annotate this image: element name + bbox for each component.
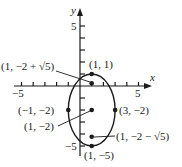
point-focus-down <box>89 135 94 140</box>
leader-focus-down <box>94 136 115 137</box>
x-tick-label-neg5: −5 <box>12 87 24 99</box>
label-focus-down: (1, −2 − √5) <box>116 130 170 143</box>
y-axis-label: y <box>70 4 76 16</box>
y-tick-label-5: 5 <box>71 20 77 32</box>
label-left: (−1, −2) <box>18 104 55 117</box>
label-bottom: (1, −5) <box>84 149 114 162</box>
point-top <box>89 72 94 77</box>
point-left <box>66 108 71 113</box>
ellipse-graph: x y −5 5 5 −5 (1, 1) (1, −2 + √5) (−1, −… <box>0 0 182 167</box>
x-tick-label-5: 5 <box>135 87 141 99</box>
point-bottom <box>89 144 94 149</box>
y-tick-label-neg5: −5 <box>65 140 77 152</box>
point-center <box>89 108 94 113</box>
x-axis-arrow-icon <box>144 83 152 89</box>
leader-focus-up <box>56 71 90 82</box>
label-right: (3, −2) <box>119 104 149 117</box>
point-right <box>113 108 118 113</box>
y-axis-arrow-icon <box>77 8 83 16</box>
data-points <box>66 72 117 149</box>
point-focus-up <box>89 81 94 86</box>
label-top: (1, 1) <box>89 58 113 71</box>
label-focus-up: (1, −2 + √5) <box>1 60 55 73</box>
y-axis <box>80 14 85 156</box>
x-axis-label: x <box>149 71 155 83</box>
label-center: (1, −2) <box>24 120 54 133</box>
leader-center <box>58 111 90 126</box>
